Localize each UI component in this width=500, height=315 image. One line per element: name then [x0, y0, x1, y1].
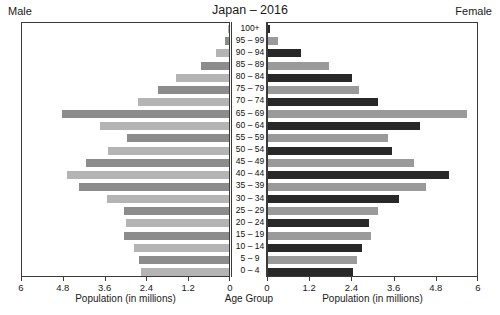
- bar-male: [201, 62, 229, 70]
- bar-male: [62, 110, 229, 118]
- bar-female: [268, 37, 278, 45]
- bar-female: [268, 219, 369, 227]
- bar-female: [268, 49, 301, 57]
- bar-female: [268, 134, 388, 142]
- bar-male: [158, 86, 229, 94]
- male-plot-area: [21, 22, 230, 277]
- age-group-label: 20 – 24: [232, 218, 268, 227]
- axis-tick: [477, 277, 478, 281]
- bar-female: [268, 98, 378, 106]
- age-group-label: 70 – 74: [232, 96, 268, 105]
- age-group-label: 40 – 44: [232, 169, 268, 178]
- bar-female: [268, 25, 270, 33]
- age-group-label: 30 – 34: [232, 194, 268, 203]
- population-pyramid-chart: Male Japan – 2016 Female 100+95 – 9990 –…: [0, 0, 500, 315]
- axis-tick-label: 6: [475, 282, 480, 293]
- age-group-label: 45 – 49: [232, 157, 268, 166]
- chart-title: Japan – 2016: [0, 3, 500, 17]
- female-axis-title: Population (in millions): [267, 293, 478, 304]
- age-group-label: 90 – 94: [232, 48, 268, 57]
- age-group-label: 75 – 79: [232, 84, 268, 93]
- axis-tick: [436, 277, 437, 281]
- age-group-label: 80 – 84: [232, 72, 268, 81]
- axis-tick: [394, 277, 395, 281]
- axis-tick: [309, 277, 310, 281]
- axis-tick-label: 0: [264, 282, 269, 293]
- bar-female: [268, 195, 399, 203]
- bar-male: [134, 244, 229, 252]
- age-group-label: 35 – 39: [232, 181, 268, 190]
- axis-tick-label: 2.4: [345, 282, 358, 293]
- bar-female: [268, 183, 426, 191]
- male-axis-title: Population (in millions): [21, 293, 230, 304]
- bar-female: [268, 171, 449, 179]
- bar-male: [225, 37, 229, 45]
- axis-tick: [267, 277, 268, 281]
- age-group-label: 65 – 69: [232, 109, 268, 118]
- bar-male: [124, 207, 229, 215]
- bar-female: [268, 268, 353, 276]
- bar-male: [176, 74, 229, 82]
- age-group-label: 10 – 14: [232, 242, 268, 251]
- bar-female: [268, 62, 329, 70]
- age-group-label: 15 – 19: [232, 230, 268, 239]
- bar-female: [268, 256, 357, 264]
- bar-male: [107, 195, 229, 203]
- bar-male: [79, 183, 229, 191]
- axis-tick: [146, 277, 147, 281]
- bar-male: [108, 147, 229, 155]
- female-plot-area: [267, 22, 478, 277]
- axis-tick: [229, 277, 230, 281]
- axis-tick: [63, 277, 64, 281]
- axis-tick-label: 1.2: [303, 282, 316, 293]
- axis-tick-label: 4.8: [56, 282, 69, 293]
- bar-female: [268, 110, 467, 118]
- bar-female: [268, 74, 352, 82]
- age-group-label: 95 – 99: [232, 36, 268, 45]
- bar-male: [127, 134, 229, 142]
- axis-tick-label: 3.6: [98, 282, 111, 293]
- female-side-label: Female: [455, 5, 492, 17]
- bar-female: [268, 86, 359, 94]
- age-group-label: 100+: [232, 24, 268, 33]
- age-group-label: 25 – 29: [232, 206, 268, 215]
- age-group-label: 85 – 89: [232, 60, 268, 69]
- bar-male: [138, 98, 229, 106]
- bar-male: [126, 219, 230, 227]
- bar-male: [216, 49, 229, 57]
- age-group-column: 100+95 – 9990 – 9485 – 8980 – 8475 – 797…: [231, 22, 267, 277]
- bar-male: [67, 171, 229, 179]
- bar-male: [139, 256, 229, 264]
- axis-tick: [351, 277, 352, 281]
- axis-tick: [21, 277, 22, 281]
- axis-tick-label: 0: [227, 282, 232, 293]
- bar-female: [268, 207, 378, 215]
- bar-male: [141, 268, 229, 276]
- age-group-label: 5 – 9: [232, 254, 268, 263]
- axis-tick: [105, 277, 106, 281]
- bar-male: [228, 25, 229, 33]
- bar-female: [268, 159, 414, 167]
- axis-tick-label: 4.8: [429, 282, 442, 293]
- age-group-label: 50 – 54: [232, 145, 268, 154]
- bar-male: [100, 122, 229, 130]
- axis-tick-label: 6: [18, 282, 23, 293]
- bar-male: [86, 159, 229, 167]
- age-group-label: 60 – 64: [232, 121, 268, 130]
- axis-tick: [188, 277, 189, 281]
- axis-tick-label: 1.2: [182, 282, 195, 293]
- bar-female: [268, 122, 420, 130]
- axis-tick-label: 3.6: [387, 282, 400, 293]
- bar-female: [268, 232, 371, 240]
- bar-female: [268, 147, 392, 155]
- axis-tick-label: 2.4: [140, 282, 153, 293]
- bar-female: [268, 244, 362, 252]
- age-group-label: 55 – 59: [232, 133, 268, 142]
- age-group-label: 0 – 4: [232, 266, 268, 275]
- bar-male: [124, 232, 229, 240]
